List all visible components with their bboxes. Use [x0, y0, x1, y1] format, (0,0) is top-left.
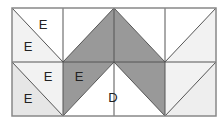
label-top-left-lower: E: [24, 39, 33, 54]
label-center-white: D: [108, 90, 117, 105]
tiling-diagram: E E E E E D: [0, 0, 223, 124]
label-bottom-left-lower: E: [24, 91, 33, 106]
label-bottom-left-upper: E: [44, 69, 53, 84]
label-bottom-dark: E: [75, 69, 84, 84]
label-top-left-upper: E: [39, 17, 48, 32]
